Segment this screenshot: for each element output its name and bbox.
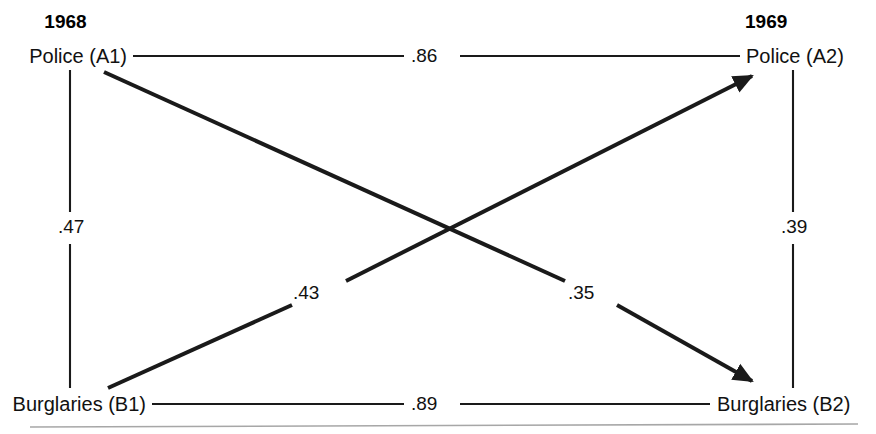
diagram-canvas	[0, 0, 876, 434]
path-label-a2-b2: .39	[778, 217, 810, 236]
path-label-a1-b2: .35	[565, 283, 597, 302]
path-label-a1-b1: .47	[55, 217, 87, 236]
year-header-1968: 1968	[0, 12, 131, 31]
path-line-a1-b2-lower	[617, 305, 752, 381]
path-line-b1-a2-upper	[346, 76, 752, 281]
node-label-burglaries-b2: Burglaries (B2)	[717, 394, 850, 414]
path-line-a1-b2-upper	[104, 72, 565, 281]
path-label-a1-a2: .86	[408, 46, 440, 65]
node-label-burglaries-b1: Burglaries (B1)	[0, 394, 146, 414]
path-label-b1-a2: .43	[290, 283, 322, 302]
node-label-police-a2: Police (A2)	[746, 46, 844, 66]
path-label-b1-b2: .89	[408, 394, 440, 413]
path-line-b1-a2-lower	[108, 305, 292, 388]
year-header-1969: 1969	[745, 12, 876, 31]
node-label-police-a1: Police (A1)	[0, 46, 127, 66]
cross-lagged-panel-figure: 1968 1969 Police (A1) Burglaries (B1) Po…	[0, 0, 876, 434]
footer-rule	[30, 424, 858, 427]
